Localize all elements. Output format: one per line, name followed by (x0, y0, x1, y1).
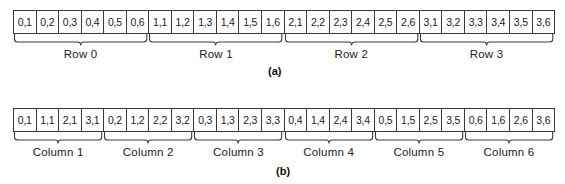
array-cell: 0,3 (59, 11, 82, 33)
caption-a: (a) (268, 65, 281, 77)
row-group-braces: Row 0Row 1Row 2Row 3 (13, 34, 554, 64)
column-group-label: Column 1 (13, 146, 103, 158)
array-cell: 3,6 (533, 11, 556, 33)
array-cell: 1,5 (239, 11, 262, 33)
column-group: Column 1 (13, 132, 103, 162)
row-group-label: Row 1 (148, 48, 283, 60)
array-cell: 1,2 (127, 109, 150, 131)
array-cell: 3,5 (442, 109, 465, 131)
array-cell: 0,1 (14, 109, 37, 131)
array-cell: 2,6 (510, 109, 533, 131)
array-cell: 2,5 (420, 109, 443, 131)
array-cell: 2,3 (330, 11, 353, 33)
array-cell: 0,2 (37, 11, 60, 33)
array-cell: 3,2 (442, 11, 465, 33)
curly-brace-icon (285, 132, 373, 146)
curly-brace-icon (285, 34, 418, 48)
cell-strip-row-major: 0,10,20,30,40,50,61,11,21,31,41,51,62,12… (13, 10, 555, 34)
row-group-label: Row 3 (419, 48, 554, 60)
curly-brace-icon (194, 132, 282, 146)
column-group: Column 2 (103, 132, 193, 162)
array-cell: 1,4 (217, 11, 240, 33)
figure-a-row-major-order: 0,10,20,30,40,50,61,11,21,31,41,51,62,12… (0, 0, 565, 90)
curly-brace-icon (375, 132, 463, 146)
column-group-label: Column 4 (284, 146, 374, 158)
array-cell: 3,5 (510, 11, 533, 33)
curly-brace-icon (420, 34, 553, 48)
figure-b-column-major-order: 0,11,12,13,10,21,22,23,20,31,32,33,30,41… (0, 98, 565, 184)
array-cell: 1,3 (194, 11, 217, 33)
array-cell: 1,1 (37, 109, 60, 131)
cell-strip-column-major: 0,11,12,13,10,21,22,23,20,31,32,33,30,41… (13, 108, 555, 132)
array-cell: 3,4 (487, 11, 510, 33)
column-group: Column 5 (374, 132, 464, 162)
array-cell: 0,3 (194, 109, 217, 131)
array-cell: 2,4 (352, 11, 375, 33)
array-cell: 1,2 (172, 11, 195, 33)
array-cell: 0,1 (14, 11, 37, 33)
array-cell: 2,6 (397, 11, 420, 33)
column-group: Column 6 (464, 132, 554, 162)
curly-brace-icon (465, 132, 553, 146)
array-cell: 1,1 (149, 11, 172, 33)
row-group-label: Row 0 (13, 48, 148, 60)
array-cell: 2,1 (59, 109, 82, 131)
array-cell: 0,5 (375, 109, 398, 131)
row-group-label: Row 2 (284, 48, 419, 60)
array-cell: 3,6 (533, 109, 556, 131)
row-group: Row 3 (419, 34, 554, 64)
caption-b: (b) (276, 165, 290, 177)
column-group-label: Column 2 (103, 146, 193, 158)
array-cell: 0,5 (104, 11, 127, 33)
column-group-label: Column 3 (193, 146, 283, 158)
array-cell: 2,3 (239, 109, 262, 131)
column-group: Column 4 (284, 132, 374, 162)
curly-brace-icon (104, 132, 192, 146)
array-cell: 2,1 (285, 11, 308, 33)
column-group-label: Column 5 (374, 146, 464, 158)
curly-brace-icon (14, 132, 102, 146)
array-cell: 2,4 (330, 109, 353, 131)
column-group: Column 3 (193, 132, 283, 162)
array-cell: 0,6 (127, 11, 150, 33)
column-group-label: Column 6 (464, 146, 554, 158)
array-cell: 1,6 (262, 11, 285, 33)
array-cell: 3,1 (82, 109, 105, 131)
array-cell: 1,4 (307, 109, 330, 131)
array-cell: 1,5 (397, 109, 420, 131)
array-cell: 2,2 (149, 109, 172, 131)
row-group: Row 1 (148, 34, 283, 64)
array-cell: 1,6 (487, 109, 510, 131)
array-cell: 3,3 (262, 109, 285, 131)
array-cell: 2,2 (307, 11, 330, 33)
array-cell: 0,4 (82, 11, 105, 33)
array-cell: 1,3 (217, 109, 240, 131)
array-cell: 3,2 (172, 109, 195, 131)
curly-brace-icon (14, 34, 147, 48)
array-cell: 3,4 (352, 109, 375, 131)
array-cell: 3,1 (420, 11, 443, 33)
array-cell: 0,2 (104, 109, 127, 131)
array-cell: 0,4 (285, 109, 308, 131)
array-cell: 3,3 (465, 11, 488, 33)
curly-brace-icon (149, 34, 282, 48)
array-cell: 0,6 (465, 109, 488, 131)
array-cell: 2,5 (375, 11, 398, 33)
row-group: Row 0 (13, 34, 148, 64)
column-group-braces: Column 1Column 2Column 3Column 4Column 5… (13, 132, 554, 162)
row-group: Row 2 (284, 34, 419, 64)
